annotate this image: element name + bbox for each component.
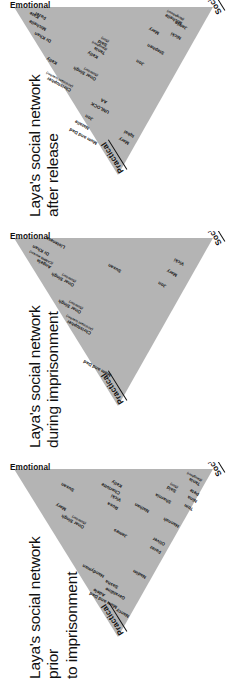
panel-after-release: Laya's social network after releasePract… [0,0,248,231]
panel-content-prior-to-imprisonment: Laya's social network prior to imprisonm… [0,462,248,693]
panel-content-during-imprisonment: Laya's social network during imprisonmen… [0,231,248,462]
panel-content-after-release: Laya's social network after releasePract… [0,0,248,231]
panel-during-imprisonment: Laya's social network during imprisonmen… [0,231,248,462]
axis-label-emotional: Emotional [10,1,50,10]
panel-prior-to-imprisonment: Laya's social network prior to imprisonm… [0,462,248,693]
figure-root: Laya's social network after releasePract… [0,0,248,693]
axis-label-emotional: Emotional [10,463,50,472]
